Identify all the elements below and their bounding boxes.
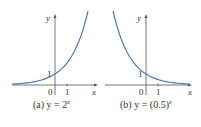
caption-b-exponent: x (169, 99, 172, 105)
y-tick-label-1: 1 (47, 69, 52, 79)
chart-panel-a: y x 0 1 1 (a) y = 2x (0, 0, 100, 127)
curve-half-pow-x (113, 11, 189, 84)
x-tick-label-1: 1 (156, 87, 161, 97)
caption-b-text: (b) y = (0.5) (120, 99, 169, 110)
chart-panel-b: y x 0 1 1 (b) y = (0.5)x (100, 0, 200, 127)
y-axis-arrow-icon (145, 14, 148, 18)
chart-a-plot: y x 0 1 1 (0, 0, 100, 100)
y-axis-label: y (45, 13, 50, 23)
x-axis-label: x (91, 87, 96, 97)
x-axis-label: x (187, 87, 192, 97)
y-axis-label: y (136, 13, 141, 23)
caption-a-text: (a) y = 2 (33, 99, 67, 110)
caption-a: (a) y = 2x (33, 99, 70, 110)
origin-label: 0 (139, 87, 144, 97)
y-axis-arrow-icon (54, 14, 57, 18)
y-tick-label-1: 1 (138, 69, 143, 79)
caption-b: (b) y = (0.5)x (120, 99, 172, 110)
chart-b-plot: y x 0 1 1 (100, 0, 201, 100)
caption-a-exponent: x (67, 99, 70, 105)
origin-label: 0 (48, 87, 53, 97)
x-tick-label-1: 1 (65, 87, 70, 97)
